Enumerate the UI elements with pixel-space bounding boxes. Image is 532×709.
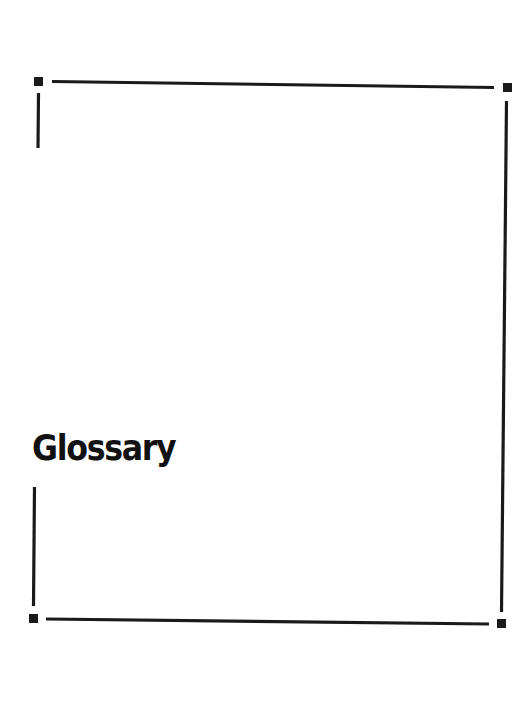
corner-square-top-right: [503, 83, 512, 92]
frame-line-right: [502, 101, 507, 612]
corner-square-bottom-right: [497, 619, 506, 628]
corner-square-bottom-left: [29, 614, 38, 623]
frame-line-left-upper: [38, 93, 39, 148]
frame-line-left-lower: [34, 487, 35, 606]
corner-square-top-left: [34, 77, 43, 86]
frame-line-bottom: [46, 619, 489, 624]
page-title: Glossary: [32, 424, 175, 472]
frame-line-top: [52, 82, 494, 88]
page-frame: [0, 0, 532, 709]
